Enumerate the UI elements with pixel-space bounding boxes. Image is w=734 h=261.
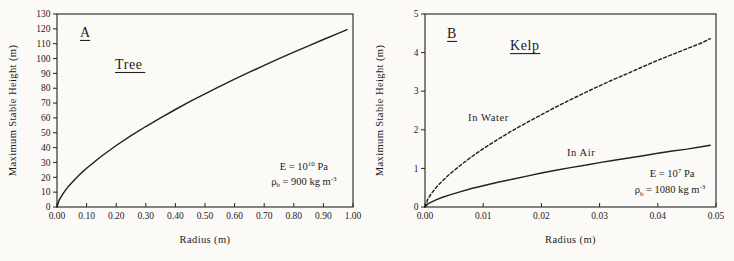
x-tick-label: 0.02	[533, 211, 550, 221]
x-tick-label: 0.40	[167, 211, 184, 221]
y-tick-label: 100	[36, 54, 51, 64]
x-axis-title: Radius (m)	[545, 234, 596, 246]
y-tick-label: 120	[36, 24, 51, 34]
y-tick-label: 5	[414, 9, 419, 19]
x-tick-label: 0.70	[256, 211, 273, 221]
panel-b-kelp-chart: 0123450.000.010.020.030.040.05Radius (m)…	[367, 0, 734, 261]
x-tick-label: 0.03	[591, 211, 608, 221]
panel-letter: A	[80, 25, 91, 40]
chart-title: Kelp	[510, 38, 540, 53]
chart-title: Tree	[115, 57, 143, 72]
x-tick-label: 0.04	[649, 211, 666, 221]
x-tick-label: 0.60	[226, 211, 243, 221]
x-tick-label: 0.80	[285, 211, 302, 221]
y-tick-label: 80	[41, 83, 51, 93]
y-tick-label: 110	[37, 39, 51, 49]
y-axis-title: Maximum Stable Height (m)	[7, 45, 19, 177]
y-tick-label: 4	[414, 48, 419, 58]
curve-label-in-air: In Air	[567, 147, 595, 158]
y-tick-label: 50	[41, 128, 51, 138]
figure-panels: 01020304050607080901001101201300.000.100…	[0, 0, 734, 261]
curve-label-in-water: In Water	[468, 112, 509, 123]
annotation-1: ρb = 1080 kg m-3	[635, 183, 706, 198]
x-tick-label: 0.30	[137, 211, 154, 221]
y-tick-label: 3	[414, 86, 419, 96]
annotation-1: ρb = 900 kg m-3	[271, 175, 337, 190]
kelp-chart-svg: 0123450.000.010.020.030.040.05Radius (m)…	[367, 0, 734, 261]
y-tick-label: 10	[41, 187, 51, 197]
x-tick-label: 0.50	[197, 211, 214, 221]
tree-chart-svg: 01020304050607080901001101201300.000.100…	[0, 0, 367, 261]
panel-letter: B	[447, 26, 456, 41]
x-tick-label: 0.00	[49, 211, 66, 221]
y-tick-label: 30	[41, 158, 51, 168]
x-tick-label: 0.10	[78, 211, 95, 221]
annotation-0: E = 1010 Pa	[280, 160, 329, 172]
y-tick-label: 130	[36, 9, 51, 19]
x-tick-label: 0.05	[708, 211, 725, 221]
x-tick-label: 0.20	[108, 211, 125, 221]
y-tick-label: 2	[414, 125, 419, 135]
x-tick-label: 0.00	[417, 211, 434, 221]
y-tick-label: 60	[41, 113, 51, 123]
annotation-0: E = 107 Pa	[650, 167, 695, 179]
x-tick-label: 1.00	[345, 211, 362, 221]
x-axis-title: Radius (m)	[180, 234, 231, 246]
x-tick-label: 0.90	[315, 211, 332, 221]
y-tick-label: 1	[414, 164, 419, 174]
y-axis-title: Maximum Stable Height (m)	[374, 45, 386, 177]
y-tick-label: 40	[41, 143, 51, 153]
y-tick-label: 90	[41, 69, 51, 79]
y-tick-label: 70	[41, 98, 51, 108]
panel-a-tree-chart: 01020304050607080901001101201300.000.100…	[0, 0, 367, 261]
x-tick-label: 0.01	[475, 211, 492, 221]
y-tick-label: 20	[41, 173, 51, 183]
